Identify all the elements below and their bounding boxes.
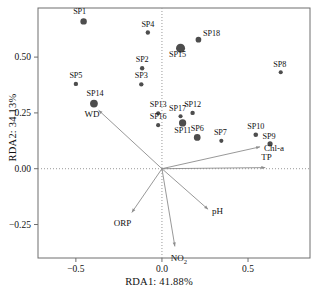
point-label-sp6: SP6 [191, 124, 204, 133]
rda-ordination-plot: −0.50.00.50.500.250.00−0.25 SP1SP2SP3SP4… [0, 0, 318, 298]
point-label-sp14: SP14 [86, 89, 103, 98]
vector-label-no2: NO2 [171, 253, 187, 265]
y-axis-title: RDA2: 34.13% [7, 73, 18, 183]
x-tick-label: 0.5 [242, 264, 254, 274]
point-label-sp7: SP7 [214, 128, 227, 137]
point-label-sp4: SP4 [141, 20, 154, 29]
y-tick-label: 0.50 [0, 52, 31, 62]
point-label-sp8: SP8 [273, 60, 286, 69]
point-label-sp10: SP10 [247, 122, 264, 131]
y-tick-label: −0.25 [0, 220, 31, 230]
x-tick-label: −0.5 [67, 264, 84, 274]
point-label-sp17: SP17 [169, 104, 186, 113]
x-axis-title: RDA1: 41.88% [0, 276, 318, 287]
x-tick-label: 0.0 [156, 264, 168, 274]
vector-label-ph: pH [212, 206, 223, 216]
vector-label-chl-a: Chl-a [264, 143, 284, 153]
point-label-sp9: SP9 [263, 132, 276, 141]
point-label-sp11: SP11 [174, 126, 191, 135]
point-label-sp3: SP3 [135, 71, 148, 80]
point-label-sp13: SP13 [150, 100, 167, 109]
axis-tickmarks [34, 57, 248, 262]
point-label-sp12: SP12 [184, 100, 201, 109]
vector-label-orp: ORP [114, 218, 132, 228]
point-label-sp18: SP18 [203, 29, 220, 38]
point-label-sp2: SP2 [136, 55, 149, 64]
point-label-sp1: SP1 [73, 7, 86, 16]
vector-label-wd: WD [85, 109, 100, 119]
point-label-sp16: SP16 [150, 112, 167, 121]
point-label-sp15: SP15 [169, 50, 186, 59]
vector-label-tp: TP [261, 152, 272, 162]
point-label-sp5: SP5 [69, 71, 82, 80]
